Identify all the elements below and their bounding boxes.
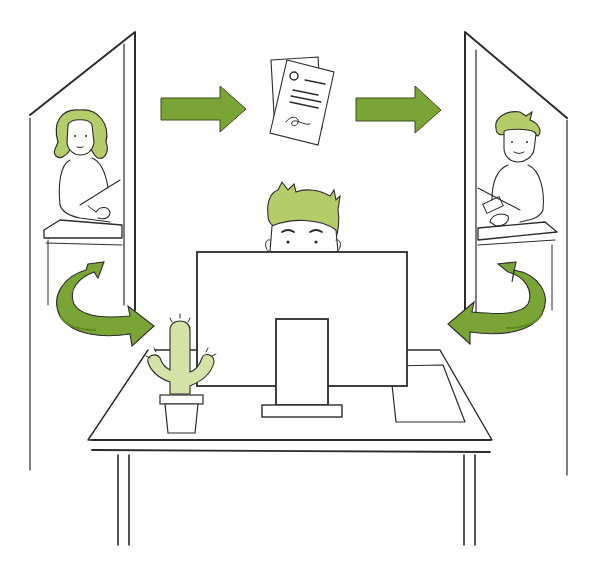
curved-arrow-right-to-center-icon	[448, 262, 545, 344]
monitor	[197, 252, 407, 417]
left-worker-woman	[54, 110, 120, 222]
arrow-left-to-document-icon	[161, 86, 246, 132]
document-stack-icon	[270, 57, 334, 145]
arrow-document-to-right-icon	[356, 86, 441, 133]
workflow-illustration	[0, 0, 596, 567]
curved-arrow-left-to-center-icon	[57, 262, 154, 346]
center-worker-man	[266, 182, 341, 252]
left-panel	[30, 32, 135, 470]
right-panel	[465, 32, 567, 475]
right-worker-man	[478, 112, 543, 226]
